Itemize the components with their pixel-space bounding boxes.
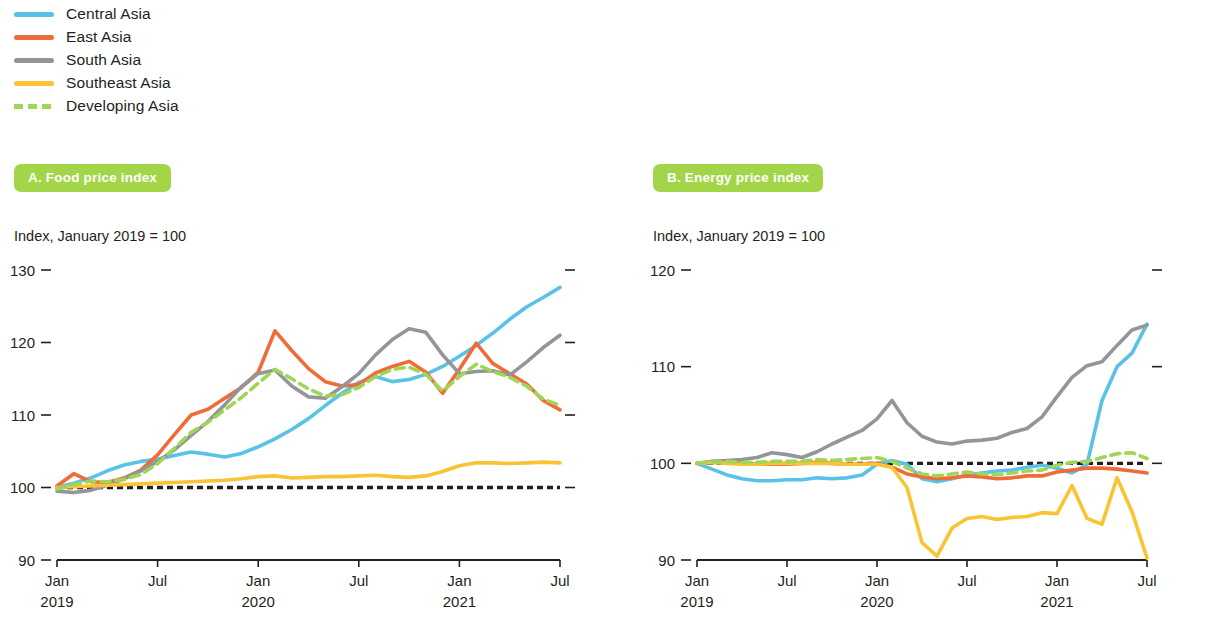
y-tick-label: 100 bbox=[650, 455, 675, 472]
x-tick-label: Jan bbox=[246, 572, 270, 589]
x-tick-year-label: 2020 bbox=[242, 593, 275, 610]
x-tick-label: Jul bbox=[1137, 572, 1156, 589]
x-tick-year-label: 2019 bbox=[40, 593, 73, 610]
x-tick-label: Jul bbox=[777, 572, 796, 589]
y-tick-label: 100 bbox=[10, 479, 35, 496]
y-tick-label: 130 bbox=[10, 262, 35, 279]
x-tick-label: Jul bbox=[148, 572, 167, 589]
x-tick-year-label: 2021 bbox=[443, 593, 476, 610]
series-line-developing-asia bbox=[57, 364, 560, 489]
y-tick-label: 90 bbox=[658, 552, 675, 569]
x-tick-year-label: 2021 bbox=[1040, 593, 1073, 610]
y-tick-label: 110 bbox=[11, 407, 35, 424]
x-tick-label: Jul bbox=[349, 572, 368, 589]
x-tick-label: Jan bbox=[685, 572, 709, 589]
series-line-central-asia bbox=[697, 324, 1147, 482]
x-tick-label: Jan bbox=[1045, 572, 1069, 589]
y-tick-label: 110 bbox=[651, 358, 675, 375]
y-tick-label: 120 bbox=[10, 334, 35, 351]
x-tick-label: Jul bbox=[957, 572, 976, 589]
y-tick-label: 120 bbox=[650, 262, 675, 279]
panel-b-chart: 90100110120Jan2019JulJan2020JulJan2021Ju… bbox=[611, 0, 1222, 617]
panel-a-food-price-index: 90100110120130Jan2019JulJan2020JulJan202… bbox=[0, 0, 611, 617]
x-tick-year-label: 2019 bbox=[680, 593, 713, 610]
x-tick-label: Jan bbox=[865, 572, 889, 589]
panel-b-energy-price-index: 90100110120Jan2019JulJan2020JulJan2021Ju… bbox=[611, 0, 1222, 617]
x-tick-label: Jan bbox=[45, 572, 69, 589]
x-tick-label: Jul bbox=[550, 572, 569, 589]
series-line-south-asia bbox=[697, 325, 1147, 463]
panel-a-chart: 90100110120130Jan2019JulJan2020JulJan202… bbox=[0, 0, 611, 617]
x-tick-label: Jan bbox=[447, 572, 471, 589]
y-tick-label: 90 bbox=[18, 552, 35, 569]
x-tick-year-label: 2020 bbox=[860, 593, 893, 610]
